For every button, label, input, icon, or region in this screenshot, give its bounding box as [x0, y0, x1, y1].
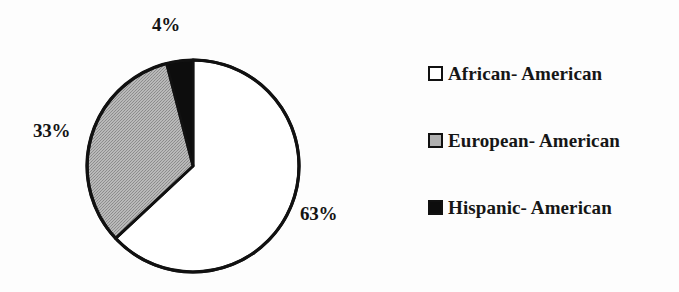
pie-value-label-african-american: 63% — [300, 203, 337, 225]
pie-chart-svg — [0, 0, 400, 292]
pie-chart-figure: 4% 33% 63% African- American European- A… — [0, 0, 679, 292]
legend-label-african-american: African- American — [448, 64, 602, 83]
legend-swatch-hispanic-american — [428, 200, 443, 215]
pie-value-label-european-american: 33% — [33, 120, 70, 142]
legend-label-hispanic-american: Hispanic- American — [448, 198, 612, 217]
legend-swatch-european-american — [428, 133, 443, 148]
legend-item-european-american[interactable]: European- American — [428, 129, 676, 151]
legend-label-european-american: European- American — [448, 131, 620, 150]
pie-value-label-hispanic-american: 4% — [152, 14, 180, 36]
legend: African- American European- American His… — [428, 62, 676, 218]
legend-swatch-african-american — [428, 66, 443, 81]
legend-item-african-american[interactable]: African- American — [428, 62, 676, 84]
legend-item-hispanic-american[interactable]: Hispanic- American — [428, 196, 676, 218]
pie-chart-area: 4% 33% 63% — [0, 0, 400, 292]
